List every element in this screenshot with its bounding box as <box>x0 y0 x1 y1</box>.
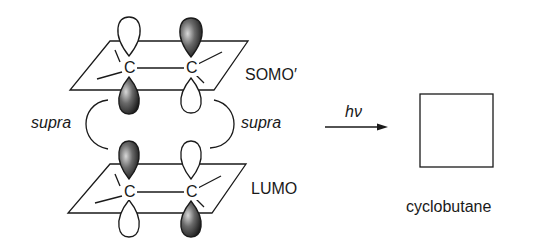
left-supra-label: supra <box>31 115 71 131</box>
somo-lobe-c2-down <box>181 78 201 113</box>
lumo-lobe-c1-up <box>119 141 139 179</box>
lumo-atom-c1: C <box>123 184 137 200</box>
somo-ethylene <box>70 17 248 114</box>
lumo-atom-c2: C <box>185 184 199 200</box>
lumo-label: LUMO <box>251 181 297 197</box>
lumo-ethylene <box>68 141 246 237</box>
somo-lobe-c2-up <box>180 18 202 57</box>
product-label: cyclobutane <box>406 199 491 215</box>
right-supra-bracket <box>210 100 234 148</box>
somo-atom-c1: C <box>123 60 137 76</box>
somo-label: SOMO′ <box>245 67 297 83</box>
somo-lobe-c1-down <box>119 77 139 114</box>
somo-lobe-c1-up <box>118 17 140 56</box>
somo-plane <box>70 41 248 90</box>
lumo-lobe-c2-up <box>181 141 201 179</box>
lumo-lobe-c1-down <box>119 200 139 237</box>
arrow-label-hv: hν <box>345 104 362 120</box>
somo-atom-c2: C <box>185 60 199 76</box>
lumo-plane <box>68 164 246 213</box>
left-supra-bracket <box>86 100 108 149</box>
right-supra-label: supra <box>241 115 281 131</box>
lumo-lobe-c2-down <box>181 201 201 237</box>
cyclobutane-square <box>420 94 493 167</box>
reaction-arrow <box>325 124 388 131</box>
